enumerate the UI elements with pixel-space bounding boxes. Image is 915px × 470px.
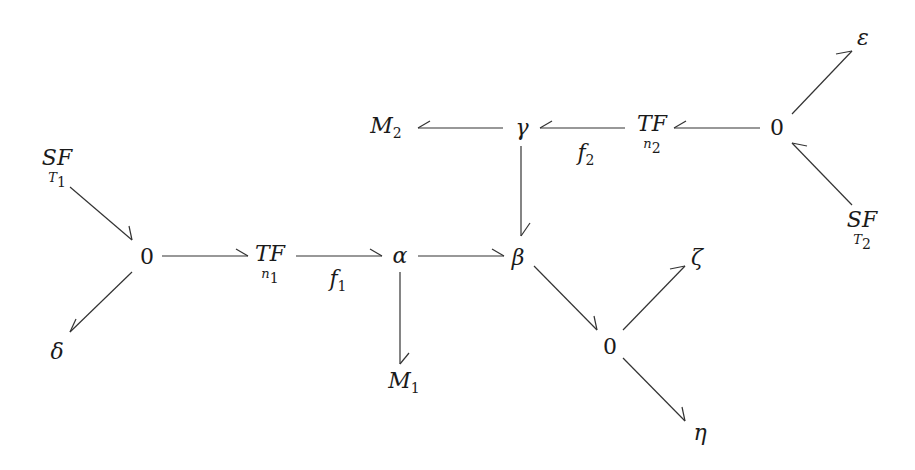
bond-sft1-to-zero-left bbox=[70, 187, 132, 240]
node-transformer-n1: TF n1 bbox=[255, 243, 285, 285]
bond-alpha-to-m1 bbox=[400, 272, 409, 364]
bond-zero-lower-to-zeta bbox=[623, 266, 685, 330]
bond-zero-right-to-tfn2 bbox=[674, 121, 760, 128]
sf-t1-label: SF bbox=[42, 147, 72, 169]
node-source-flow-t2: SF T2 bbox=[847, 209, 877, 251]
bond-beta-to-zero-lower bbox=[534, 266, 597, 330]
node-m2: M2 bbox=[370, 115, 401, 140]
bond-label-f1: f1 bbox=[329, 268, 346, 293]
bond-tfn2-to-gamma bbox=[540, 121, 625, 128]
node-gamma: γ bbox=[515, 117, 528, 139]
bond-sft2-to-zero-right bbox=[792, 143, 852, 205]
tf-n1-subscript: n1 bbox=[261, 267, 278, 285]
sf-t2-subscript: T2 bbox=[853, 233, 871, 251]
node-zero-junction-right: 0 bbox=[770, 117, 784, 139]
node-zero-junction-left: 0 bbox=[140, 246, 154, 268]
tf-n2-subscript: n2 bbox=[643, 137, 660, 155]
bond-graph-diagram: SF T1 0 δ TF n1 f1 α M1 β γ M2 f2 TF n2 … bbox=[0, 0, 915, 470]
bond-zero-right-to-epsilon bbox=[792, 51, 852, 114]
node-alpha: α bbox=[393, 245, 408, 267]
node-delta: δ bbox=[50, 341, 63, 363]
node-epsilon: ε bbox=[857, 27, 869, 49]
tf-n2-label: TF bbox=[637, 113, 667, 135]
bond-zero-left-to-tfn1 bbox=[162, 249, 248, 256]
node-zero-junction-lower: 0 bbox=[603, 336, 617, 358]
bond-gamma-to-beta bbox=[521, 146, 530, 236]
bond-zero-lower-to-eta bbox=[623, 358, 685, 421]
node-zeta: ζ bbox=[691, 247, 703, 269]
node-beta: β bbox=[512, 247, 525, 269]
bond-label-f2: f2 bbox=[577, 142, 594, 167]
node-m1: M1 bbox=[388, 370, 419, 395]
sf-t2-label: SF bbox=[847, 209, 877, 231]
bond-tfn1-to-alpha bbox=[296, 249, 382, 256]
bond-lines bbox=[0, 0, 915, 470]
node-source-flow-t1: SF T1 bbox=[42, 147, 72, 189]
node-transformer-n2: TF n2 bbox=[637, 113, 667, 155]
sf-t1-subscript: T1 bbox=[48, 171, 66, 189]
bond-gamma-to-m2 bbox=[418, 121, 503, 128]
bond-alpha-to-beta bbox=[418, 249, 504, 256]
bond-zero-left-to-delta bbox=[70, 272, 132, 332]
node-eta: η bbox=[693, 422, 706, 444]
tf-n1-label: TF bbox=[255, 243, 285, 265]
